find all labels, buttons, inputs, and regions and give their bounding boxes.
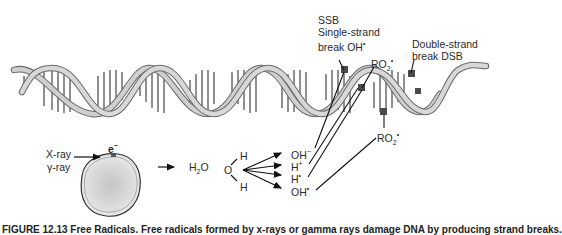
figure-caption: FIGURE 12.13 Free Radicals. Free radical… xyxy=(2,224,562,235)
xray-label: X-ray xyxy=(46,148,71,160)
dsb-line2: break DSB xyxy=(412,50,478,62)
ro2-lower-label: RO2• xyxy=(377,129,399,149)
ssb-label: SSB Single-strand break OH• xyxy=(318,14,380,53)
radical-hydroxyl: OH• xyxy=(291,183,309,198)
ssb-line1: SSB xyxy=(318,14,380,26)
water-formula: H2O xyxy=(189,161,209,178)
dsb-line1: Double-strand xyxy=(412,38,478,50)
water-hydrogen-top: H xyxy=(240,150,248,162)
dsb-damage-site-2 xyxy=(415,88,421,94)
electron-label: e− xyxy=(108,140,118,155)
ssb-line2: Single-strand xyxy=(318,26,380,38)
ssb-line3: break OH• xyxy=(318,38,380,53)
lower-ro2-damage-site xyxy=(380,108,387,115)
ro2-upper-label: RO2• xyxy=(371,55,393,75)
water-hydrogen-bottom: H xyxy=(240,181,248,193)
water-oxygen: O xyxy=(224,164,232,176)
dsb-label: Double-strand break DSB xyxy=(412,38,478,62)
gammaray-label: γ-ray xyxy=(47,161,70,173)
cell-illustration xyxy=(81,153,140,216)
radical-arrows xyxy=(243,153,281,188)
